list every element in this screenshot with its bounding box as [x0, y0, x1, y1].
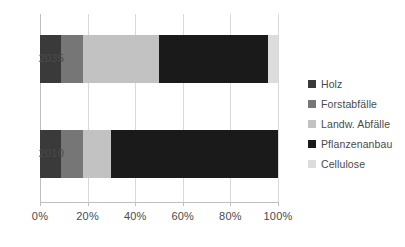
category-label-2035: 2035	[24, 52, 64, 64]
category-label-2010: 2010	[24, 147, 64, 159]
tickmark-0%	[40, 202, 41, 206]
x-axis-label-60%: 60%	[158, 210, 208, 222]
bar-segment-2035-landw-abf-lle	[83, 35, 159, 83]
legend-item-landw-abf-lle[interactable]: Landw. Abfälle	[308, 114, 405, 134]
legend-swatch-icon	[308, 100, 316, 108]
legend-swatch-icon	[308, 80, 316, 88]
legend-item-pflanzenanbau[interactable]: Pflanzenanbau	[308, 134, 405, 154]
stacked-bar-chart: 20352010 0%20%40%60%80%100% HolzForstabf…	[0, 0, 405, 247]
tickmark-20%	[88, 202, 89, 206]
legend-swatch-icon	[308, 140, 316, 148]
legend-item-forstabf-lle[interactable]: Forstabfälle	[308, 94, 405, 114]
x-axis-tickmarks	[40, 202, 278, 206]
tickmark-100%	[278, 202, 279, 206]
x-axis-labels: 0%20%40%60%80%100%	[40, 210, 278, 226]
x-axis-label-80%: 80%	[205, 210, 255, 222]
legend: HolzForstabfälleLandw. AbfällePflanzenan…	[308, 74, 405, 174]
x-axis-label-100%: 100%	[253, 210, 303, 222]
legend-item-cellulose[interactable]: Cellulose	[308, 154, 405, 174]
bar-segment-2010-landw-abf-lle	[83, 130, 112, 178]
x-axis-label-0%: 0%	[15, 210, 65, 222]
legend-label: Pflanzenanbau	[321, 138, 392, 150]
legend-label: Forstabfälle	[321, 98, 377, 110]
bar-segment-2010-forstabf-lle	[61, 130, 82, 178]
plot-area	[40, 14, 278, 202]
tickmark-40%	[135, 202, 136, 206]
tickmark-60%	[183, 202, 184, 206]
tickmark-80%	[230, 202, 231, 206]
bar-segment-2010-pflanzenanbau	[111, 130, 278, 178]
bar-row-2035	[40, 35, 278, 83]
legend-label: Cellulose	[321, 158, 365, 170]
bar-segment-2035-cellulose	[268, 35, 278, 83]
legend-item-holz[interactable]: Holz	[308, 74, 405, 94]
x-axis-label-20%: 20%	[63, 210, 113, 222]
gridline-100%	[278, 14, 279, 202]
bar-segment-2035-pflanzenanbau	[159, 35, 268, 83]
legend-swatch-icon	[308, 160, 316, 168]
legend-label: Holz	[321, 78, 342, 90]
bar-segment-2035-forstabf-lle	[61, 35, 82, 83]
bar-row-2010	[40, 130, 278, 178]
legend-label: Landw. Abfälle	[321, 118, 390, 130]
x-axis-label-40%: 40%	[110, 210, 160, 222]
legend-swatch-icon	[308, 120, 316, 128]
